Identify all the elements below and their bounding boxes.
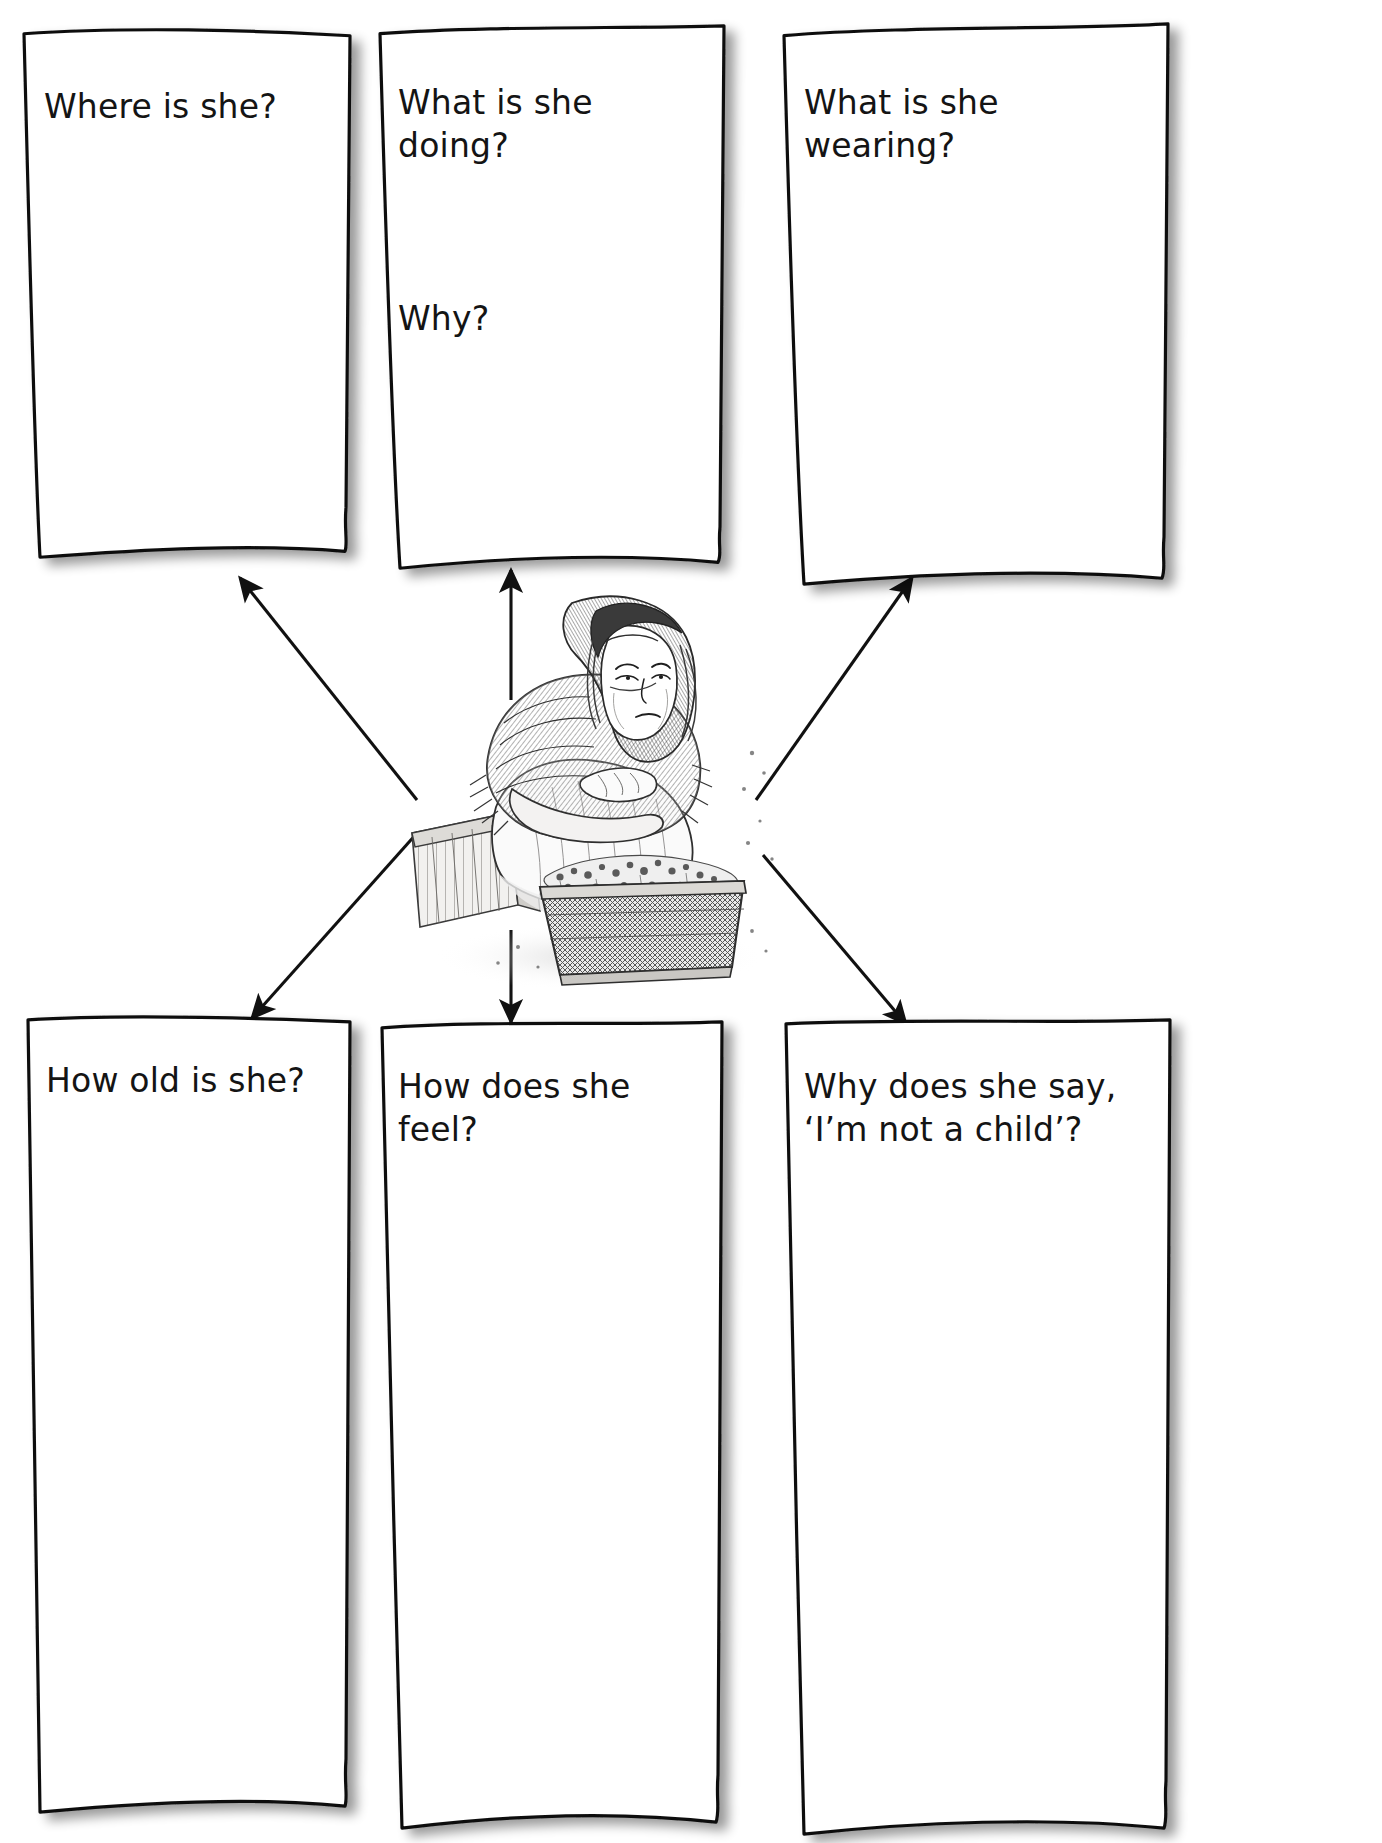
paper-outline bbox=[6, 1008, 370, 1822]
question-text-line-2: ‘I’m not a child’? bbox=[804, 1110, 1083, 1149]
question-text: Why does she say, ‘I’m not a child’? bbox=[778, 1066, 1168, 1152]
question-card-how-old-is-she[interactable]: How old is she? bbox=[20, 1018, 350, 1798]
question-text: Where is she? bbox=[18, 86, 348, 129]
question-text: How does she feel? bbox=[372, 1066, 722, 1152]
arrow-to-how-old-is-she bbox=[252, 832, 418, 1018]
question-card-what-is-she-doing[interactable]: What is she doing? Why? bbox=[372, 26, 722, 556]
flower-basket bbox=[540, 856, 746, 985]
question-card-what-is-she-wearing[interactable]: What is she wearing? bbox=[778, 26, 1168, 571]
question-text-secondary: Why? bbox=[372, 298, 722, 341]
question-text-line-1: Why does she say, bbox=[804, 1067, 1116, 1106]
arrow-to-where-is-she bbox=[240, 578, 417, 800]
question-text: What is she wearing? bbox=[778, 82, 1168, 168]
question-text: How old is she? bbox=[20, 1060, 350, 1103]
girl-selling-flowers-sketch bbox=[400, 575, 790, 1000]
sketch-svg bbox=[400, 575, 790, 1000]
question-card-how-does-she-feel[interactable]: How does she feel? bbox=[372, 1024, 722, 1814]
question-card-where-is-she[interactable]: Where is she? bbox=[18, 30, 348, 545]
question-text: What is she doing? bbox=[372, 82, 722, 168]
question-card-why-does-she-say[interactable]: Why does she say, ‘I’m not a child’? bbox=[778, 1024, 1168, 1819]
